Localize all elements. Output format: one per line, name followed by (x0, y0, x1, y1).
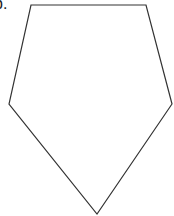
pentagon-shape (9, 5, 172, 214)
pentagon-diagram (0, 0, 174, 216)
